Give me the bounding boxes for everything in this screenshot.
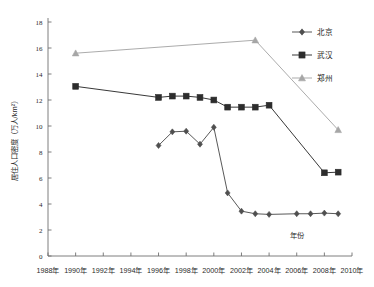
legend-label-北京: 北京	[317, 27, 333, 37]
series-北京	[156, 124, 341, 217]
data-point-marker	[183, 93, 189, 99]
series-line-北京	[159, 127, 339, 214]
x-axis-tick-label: 2004年	[258, 266, 281, 275]
data-point-marker	[299, 52, 305, 58]
y-axis-title: 居住人口密度（万人/km²）	[10, 97, 19, 181]
data-point-marker	[267, 211, 272, 217]
data-point-marker	[294, 211, 299, 217]
x-axis-tick-label: 1996年	[147, 266, 170, 275]
y-axis-tick-label: 6	[39, 175, 43, 183]
chart-axes	[48, 18, 352, 256]
data-point-marker	[308, 211, 313, 217]
data-point-marker	[169, 93, 175, 99]
x-axis-tick-label: 2002年	[230, 266, 253, 275]
population-density-line-chart: 0246810121416181988年1990年1992年1994年1996年…	[0, 0, 374, 287]
series-line-武汉	[76, 86, 339, 172]
x-axis-tick-label: 1990年	[64, 266, 87, 275]
x-axis-tick-label: 1992年	[92, 266, 115, 275]
data-point-marker	[225, 104, 231, 110]
chart-legend: 北京武汉郑州	[292, 27, 333, 83]
series-武汉	[73, 83, 341, 175]
y-axis-tick-label: 4	[39, 201, 43, 209]
legend-label-郑州: 郑州	[317, 73, 333, 83]
legend-label-武汉: 武汉	[317, 50, 333, 60]
x-axis-tick-label: 2000年	[202, 266, 225, 275]
data-point-marker	[335, 169, 341, 175]
data-point-marker	[73, 83, 79, 89]
x-axis-title: 年份	[290, 231, 305, 240]
x-axis-tick-label: 2010年	[341, 266, 364, 275]
y-axis-tick-label: 16	[36, 45, 44, 53]
y-axis-tick-label: 0	[39, 253, 43, 261]
series-郑州	[72, 37, 341, 133]
data-point-marker	[336, 211, 341, 217]
y-axis-tick-label: 18	[36, 19, 44, 27]
x-axis-tick-label: 1988年	[37, 266, 60, 275]
x-axis-tick-label: 1998年	[175, 266, 198, 275]
x-axis-tick-label: 1994年	[119, 266, 142, 275]
data-point-marker	[253, 211, 258, 217]
data-point-marker	[252, 104, 258, 110]
y-axis-tick-label: 14	[36, 71, 44, 79]
data-point-marker	[321, 170, 327, 176]
y-axis-tick-label: 12	[36, 97, 44, 105]
data-point-marker	[322, 210, 327, 216]
y-axis-tick-label: 2	[39, 227, 43, 235]
y-axis-tick-label: 8	[39, 149, 43, 157]
data-point-marker	[156, 95, 162, 101]
x-axis-tick-label: 2006年	[285, 266, 308, 275]
data-point-marker	[299, 29, 304, 35]
y-axis-tick-label: 10	[36, 123, 44, 131]
data-point-marker	[211, 97, 217, 103]
data-point-marker	[197, 95, 203, 101]
x-axis-tick-label: 2008年	[313, 266, 336, 275]
data-point-marker	[239, 104, 245, 110]
data-point-marker	[266, 102, 272, 108]
chart-container: 0246810121416181988年1990年1992年1994年1996年…	[0, 0, 374, 287]
